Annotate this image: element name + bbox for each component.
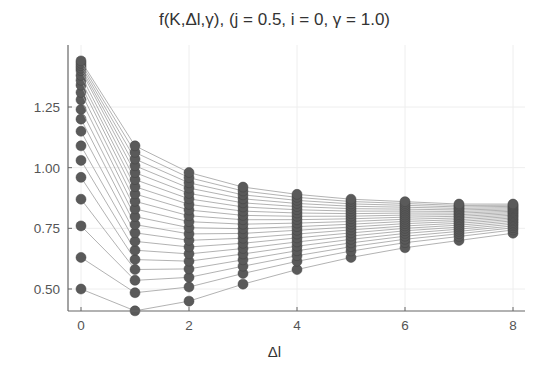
data-point [76,284,86,294]
data-point [400,197,410,207]
x-tick-label: 8 [509,318,517,333]
data-point [130,288,140,298]
data-point [238,182,248,192]
data-point [130,265,140,275]
data-point [184,168,194,178]
x-tick-label: 0 [77,318,85,333]
data-point [238,279,248,289]
data-point [76,194,86,204]
y-tick-label: 1.00 [34,161,60,176]
data-point [76,172,86,182]
data-point [130,255,140,265]
data-point [76,56,86,66]
data-point [130,245,140,255]
data-point [184,296,194,306]
data-point [76,126,86,136]
data-point [76,221,86,231]
data-point [292,189,302,199]
data-point [76,141,86,151]
data-point [454,199,464,209]
x-axis-label: Δl [0,343,549,360]
data-point [130,275,140,285]
data-point [184,282,194,292]
y-tick-label: 1.25 [34,100,60,115]
data-point [346,194,356,204]
data-point [76,155,86,165]
x-tick-label: 2 [185,318,193,333]
plot-area: 024680.500.751.001.25 [0,0,549,374]
y-tick-label: 0.75 [34,221,60,236]
x-tick-label: 6 [401,318,409,333]
data-point [130,141,140,151]
y-tick-label: 0.50 [34,282,60,297]
x-tick-label: 4 [293,318,301,333]
data-point [508,199,518,209]
data-point [76,252,86,262]
